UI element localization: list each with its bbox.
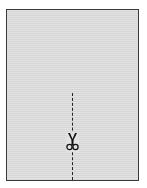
scissors-icon: [66, 132, 79, 152]
diagram-canvas: [0, 0, 147, 188]
paper-sheet: [6, 9, 139, 181]
